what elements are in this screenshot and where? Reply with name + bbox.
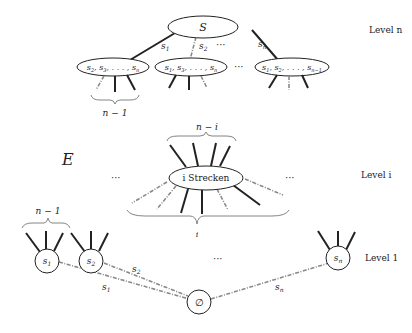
edge-label-s2: s2 — [199, 41, 208, 52]
child-node-1-label: s2, s3, . . . , sn — [87, 63, 139, 73]
empty-set-label: ∅ — [195, 297, 204, 308]
edge-down — [181, 189, 188, 213]
child-node-2-label: s1, s3, . . . , sn — [165, 63, 217, 73]
edge-up — [346, 232, 355, 250]
subedge — [127, 75, 135, 90]
bottom-edge-label-s2: s2 — [132, 264, 141, 275]
subedge — [302, 75, 308, 88]
edge-down — [233, 185, 260, 205]
subedge — [96, 76, 104, 90]
subedge — [169, 75, 176, 88]
edge-up — [211, 143, 216, 166]
brace-i — [127, 210, 289, 224]
set-label-E: E — [61, 150, 74, 169]
root-label: S — [199, 21, 207, 34]
ellipsis-bottom: ··· — [213, 253, 223, 264]
edge-up — [26, 233, 40, 252]
bottom-edge-label-sn: sn — [275, 282, 284, 293]
edge-up — [193, 143, 198, 166]
subedge — [269, 75, 277, 88]
brace-n-minus-i — [167, 132, 236, 141]
edge-down — [132, 182, 167, 203]
brace-n-minus-1-bottom — [22, 218, 70, 228]
edge-root-child1 — [130, 30, 180, 60]
brace-label-n-minus-1-bottom: n − 1 — [36, 206, 61, 216]
edge-down — [245, 179, 283, 195]
ellipsis-mid-left: ··· — [111, 172, 121, 183]
edge-up — [220, 146, 230, 166]
edge-up — [71, 233, 85, 252]
edge-sn-empty — [211, 263, 329, 299]
subedge — [201, 76, 207, 88]
edge-down — [157, 186, 176, 209]
brace-n-minus-1-top — [91, 95, 139, 104]
edge-up — [170, 145, 186, 167]
edge-s2-empty — [104, 263, 188, 296]
ellipsis-top-children: ··· — [234, 61, 244, 72]
ellipsis-top-edges: ··· — [216, 39, 226, 50]
edge-up — [318, 231, 330, 250]
brace-label-n-minus-i: n − i — [196, 122, 218, 132]
search-tree-diagram: S s1 s2 ··· sn s2, s3, . . . , sn s1, s3… — [0, 0, 412, 333]
level-1-label: Level 1 — [365, 253, 398, 263]
edge-label-s1: s1 — [161, 41, 169, 52]
edge-s1-empty — [59, 262, 189, 299]
edge-up — [99, 233, 108, 251]
middle-node-label: i Strecken — [183, 173, 230, 183]
edge-up — [54, 233, 63, 251]
level-i-label: Level i — [361, 170, 391, 180]
ellipsis-mid-right: ··· — [285, 172, 295, 183]
edge-down — [217, 189, 228, 210]
brace-label-n-minus-1-top: n − 1 — [103, 108, 128, 118]
edge-label-sn: sn — [258, 39, 267, 50]
bottom-edge-label-s1: s1 — [102, 282, 110, 293]
brace-label-i: i — [196, 230, 199, 239]
edge-root-child2 — [190, 37, 196, 60]
level-n-label: Level n — [369, 25, 402, 35]
